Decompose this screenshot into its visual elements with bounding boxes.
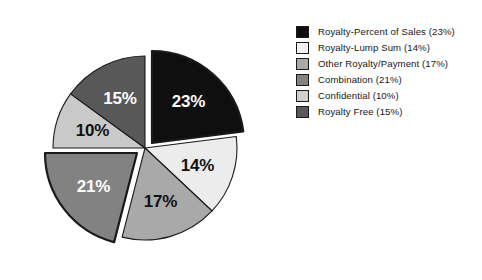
legend-item: Other Royalty/Payment (17%) <box>296 56 482 72</box>
pie-chart-svg: 23%14%17%21%10%15% <box>0 0 290 280</box>
chart-legend: Royalty-Percent of Sales (23%)Royalty-Lu… <box>296 24 482 120</box>
legend-swatch-icon <box>296 90 309 102</box>
legend-swatch-icon <box>296 42 309 54</box>
legend-item-label: Other Royalty/Payment (17%) <box>318 56 448 72</box>
legend-item-label: Royalty-Lump Sum (14%) <box>318 40 430 56</box>
pie-slice-label: 21% <box>77 177 111 196</box>
legend-item-label: Royalty-Percent of Sales (23%) <box>318 24 455 40</box>
pie-slice-label: 23% <box>172 92 206 111</box>
legend-item: Royalty Free (15%) <box>296 104 482 120</box>
legend-item-label: Royalty Free (15%) <box>318 104 402 120</box>
legend-swatch-icon <box>296 26 309 38</box>
legend-item-label: Confidential (10%) <box>318 88 399 104</box>
legend-item: Royalty-Lump Sum (14%) <box>296 40 482 56</box>
pie-slice-label: 17% <box>144 192 178 211</box>
pie-chart-figure: 23%14%17%21%10%15% Royalty-Percent of Sa… <box>0 0 482 280</box>
legend-item: Confidential (10%) <box>296 88 482 104</box>
pie-slice <box>45 153 137 242</box>
legend-swatch-icon <box>296 58 309 70</box>
pie-chart-plot-area: 23%14%17%21%10%15% <box>0 0 290 280</box>
pie-slice-label: 14% <box>181 156 215 175</box>
legend-swatch-icon <box>296 74 309 86</box>
legend-swatch-icon <box>296 106 309 118</box>
legend-item: Combination (21%) <box>296 72 482 88</box>
pie-slice-label: 10% <box>76 121 110 140</box>
legend-item: Royalty-Percent of Sales (23%) <box>296 24 482 40</box>
legend-item-label: Combination (21%) <box>318 72 402 88</box>
pie-slice-label: 15% <box>103 89 137 108</box>
pie-slices-group <box>45 51 243 242</box>
